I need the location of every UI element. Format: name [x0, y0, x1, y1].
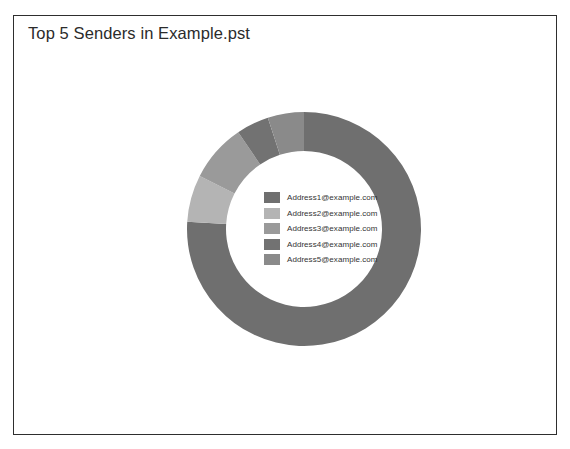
- legend-item[interactable]: Address4@example.com: [264, 237, 414, 253]
- legend-swatch-icon: [264, 192, 280, 203]
- legend-item-label: Address5@example.com: [287, 254, 378, 265]
- legend-swatch-icon: [264, 239, 280, 250]
- legend-item-label: Address2@example.com: [287, 208, 378, 219]
- legend-item-label: Address4@example.com: [287, 239, 378, 250]
- legend-item[interactable]: Address2@example.com: [264, 206, 414, 222]
- legend-item[interactable]: Address1@example.com: [264, 190, 414, 206]
- chart-frame: Top 5 Senders in Example.pst Address1@ex…: [13, 15, 557, 435]
- legend-item-label: Address1@example.com: [287, 192, 378, 203]
- legend-item[interactable]: Address5@example.com: [264, 252, 414, 268]
- legend-item-label: Address3@example.com: [287, 223, 378, 234]
- legend-swatch-icon: [264, 254, 280, 265]
- legend-swatch-icon: [264, 223, 280, 234]
- chart-legend: Address1@example.com Address2@example.co…: [264, 190, 414, 268]
- legend-swatch-icon: [264, 208, 280, 219]
- legend-item[interactable]: Address3@example.com: [264, 221, 414, 237]
